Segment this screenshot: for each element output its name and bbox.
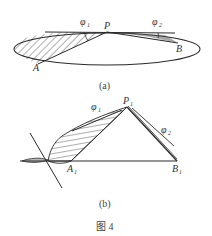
angle-label-phi2-a: φ — [152, 16, 158, 27]
panel-a: P A B φ 1 φ 2 (a) — [14, 16, 200, 92]
panel-label-a: (a) — [99, 80, 110, 92]
point-sub-a1: 1 — [74, 169, 77, 175]
hatched-region-a — [14, 32, 107, 64]
point-label-p1: P — [122, 95, 129, 106]
panel-label-b: (b) — [99, 198, 111, 210]
point-label-p: P — [103, 20, 110, 31]
angle-sub-phi1-b: 1 — [98, 107, 101, 113]
point-sub-b1: 1 — [179, 169, 182, 175]
angle-label-phi2-b: φ — [161, 124, 167, 135]
panel-b: P 1 A 1 B 1 φ 1 φ 2 (b) — [20, 95, 182, 210]
angle-sub-phi2-b: 2 — [168, 130, 171, 136]
angle-sub-phi1-a: 1 — [87, 22, 90, 28]
point-label-b: B — [176, 43, 182, 54]
angle-sub-phi2-a: 2 — [159, 22, 162, 28]
figure-caption: 图 4 — [96, 221, 114, 232]
figure-canvas: P A B φ 1 φ 2 (a) P 1 A 1 B 1 φ 1 — [0, 0, 212, 236]
tangent-line-phi2 — [132, 108, 174, 146]
angle-label-phi1-a: φ — [80, 16, 86, 27]
point-label-a: A — [32, 62, 40, 73]
lens-shape — [22, 158, 48, 162]
hatched-region-b — [48, 107, 127, 161]
point-label-a1: A — [66, 163, 74, 174]
point-label-b1: B — [172, 163, 178, 174]
angle-label-phi1-b: φ — [91, 101, 97, 112]
point-sub-p1: 1 — [130, 101, 133, 107]
